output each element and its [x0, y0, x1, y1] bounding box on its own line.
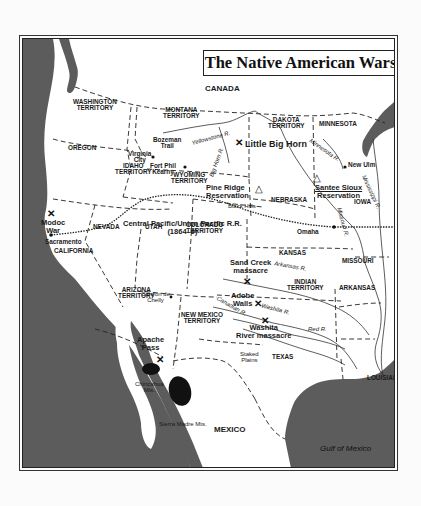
map-title-box: The Native American Wars — [203, 50, 395, 76]
puget-sound — [59, 39, 78, 93]
label-washington-territory: WASHINGTONTERRITORY — [73, 99, 117, 112]
label-minnesota: MINNESOTA — [319, 121, 357, 127]
reservation-triangle-icon: △ — [313, 173, 321, 183]
label-california: CALIFORNIA — [54, 248, 93, 254]
label-sierra-madre-mts: Sierra Madre Mts. — [159, 421, 207, 427]
label-mexico: MEXICO — [214, 426, 246, 434]
label-canyon-de-chelly: Canyon deChelly — [141, 291, 170, 303]
label-texas: TEXAS — [272, 354, 293, 360]
label-iowa: IOWA — [354, 199, 371, 205]
label-black-hills: Black Hills — [228, 203, 256, 209]
label-new-mexico-territory: NEW MEXICOTERRITORY — [181, 312, 223, 325]
battle-icon: ✕ — [156, 355, 164, 365]
label-canada: CANADA — [205, 85, 240, 93]
label-little-big-horn: Little Big Horn — [245, 140, 307, 149]
label-new-ulm: New Ulm — [348, 162, 375, 169]
label-bozeman-trail: BozemanTrail — [153, 137, 181, 150]
label-sand-creek-massacre: Sand Creekmassacre — [230, 259, 271, 274]
label-chiricahua-mts: ChiricahuaMts. — [135, 381, 164, 393]
label-staked-plains: StakedPlains — [240, 351, 259, 363]
reservation-triangle-icon: △ — [255, 184, 263, 194]
label-montana-territory: MONTANATERRITORY — [163, 107, 200, 120]
label-kansas: KANSAS — [279, 250, 306, 256]
label-oregon: OREGON — [68, 145, 96, 151]
label-virginia-city: VirginiaCity — [128, 151, 151, 164]
label-indian-territory: INDIANTERRITORY — [287, 279, 324, 292]
label-missouri: MISSOURI — [342, 258, 374, 264]
map-title: The Native American Wars — [205, 53, 395, 73]
label-apache-pass: ApachePass — [137, 336, 164, 351]
label-omaha: Omaha — [297, 229, 319, 235]
label-railroad: Central Pacific/Union Pacific R.R.(1864–… — [123, 220, 242, 235]
battle-icon: ✕ — [235, 138, 243, 148]
label-sacramento: Sacramento — [45, 239, 82, 245]
label-nevada: NEVADA — [93, 224, 120, 230]
battle-icon: ✕ — [243, 277, 251, 287]
label-arkansas: ARKANSAS — [339, 285, 375, 291]
label-dakota-territory: DAKOTATERRITORY — [268, 117, 305, 130]
label-modoc-war: ModocWar — [41, 219, 65, 234]
label-wyoming-territory: WYOMINGTERRITORY — [171, 172, 208, 185]
map-frame: The Native American Wars CANADA MEXICO G… — [19, 35, 398, 471]
label-santee-sioux-reservation: Santee SiouxReservation — [315, 184, 362, 199]
lake-superior — [362, 101, 395, 157]
map-canvas: The Native American Wars CANADA MEXICO G… — [22, 38, 395, 468]
label-louisiana: LOUISIANA — [367, 375, 395, 381]
label-fort-phil-kearny: Fort PhilKearny — [150, 163, 176, 176]
label-nebraska: NEBRASKA — [271, 197, 307, 203]
label-gulf-of-mexico: Gulf of Mexico — [320, 445, 371, 453]
label-red-river: Red R. — [308, 326, 327, 332]
label-pine-ridge-reservation: Pine RidgeReservation — [206, 184, 249, 199]
label-idaho-territory: IDAHOTERRITORY — [115, 163, 152, 176]
label-washita-river-massacre: WashitaRiver massacre — [236, 324, 291, 339]
